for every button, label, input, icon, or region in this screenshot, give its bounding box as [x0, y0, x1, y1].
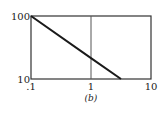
- x-tick-label: 10: [145, 81, 158, 92]
- x-tick-label: 1: [88, 81, 94, 92]
- y-tick-label: 10: [17, 74, 30, 85]
- log-log-chart: .1110 10100 (b): [0, 0, 161, 128]
- y-tick-label: 100: [11, 11, 30, 22]
- figure-caption: (b): [85, 93, 98, 103]
- data-line: [31, 16, 121, 79]
- plot-area: [31, 16, 151, 79]
- y-axis-ticks: 10100: [11, 11, 30, 85]
- x-axis-ticks: .1110: [26, 81, 157, 92]
